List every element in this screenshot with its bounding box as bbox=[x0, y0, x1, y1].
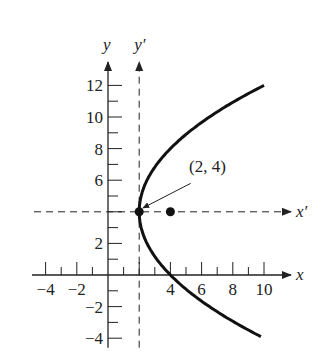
y-tick-label: 8 bbox=[95, 140, 104, 159]
y-axis-label: y bbox=[101, 35, 111, 54]
x-tick-label: 10 bbox=[256, 280, 273, 299]
y-tick-label: 10 bbox=[86, 108, 103, 127]
y-tick-label: −2 bbox=[85, 298, 103, 317]
vertex-point bbox=[135, 207, 144, 216]
y-prime-label: y′ bbox=[132, 35, 146, 54]
y-tick-label: −4 bbox=[85, 329, 104, 348]
x-tick-label: 4 bbox=[166, 280, 175, 299]
y-tick-label: 2 bbox=[95, 234, 104, 253]
x-tick-label: 8 bbox=[229, 280, 238, 299]
y-tick-label: 12 bbox=[86, 76, 103, 95]
x-axis-label: x bbox=[295, 265, 304, 284]
x-tick-label: 6 bbox=[197, 280, 206, 299]
y-tick-label: 6 bbox=[95, 171, 104, 190]
annotation-arrow bbox=[143, 183, 190, 207]
focus-point bbox=[166, 207, 175, 216]
x-tick-label: −2 bbox=[68, 280, 86, 299]
vertex-label: (2, 4) bbox=[189, 157, 226, 176]
x-prime-label: x′ bbox=[295, 202, 308, 221]
parabola-diagram: xy−4−246810−4−22681012y′x′(2, 4) bbox=[0, 0, 331, 353]
x-tick-label: −4 bbox=[37, 280, 56, 299]
